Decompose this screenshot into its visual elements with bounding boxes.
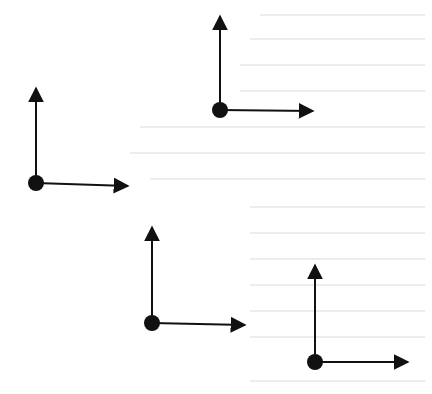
origin-dot-icon (28, 175, 44, 191)
origin-dot-icon (307, 354, 323, 370)
right-arrow-icon (36, 183, 128, 186)
coordinate-frames-diagram (0, 0, 432, 394)
coordinate-frame-frame-c (144, 227, 245, 331)
coordinate-frame-frame-b (212, 16, 313, 118)
right-arrow-icon (152, 323, 245, 325)
coordinate-frame-frame-a (28, 88, 128, 191)
origin-dot-icon (144, 315, 160, 331)
origin-dot-icon (212, 102, 228, 118)
right-arrow-icon (220, 110, 313, 111)
coordinate-frame-frame-d (307, 265, 408, 370)
